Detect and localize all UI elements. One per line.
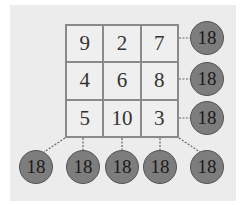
column-sum-circle: 18	[143, 150, 177, 184]
column-sum-circle: 18	[66, 150, 100, 184]
grid-cell: 5	[66, 100, 103, 137]
grid-cell: 4	[66, 62, 103, 99]
grid-cell: 3	[141, 100, 178, 137]
anti-diagonal-sum-circle: 18	[19, 150, 53, 184]
magic-square-grid: 9 2 7 4 6 8 5 10 3	[65, 24, 179, 138]
row-sum-circle: 18	[190, 62, 224, 96]
main-diagonal-sum-circle: 18	[190, 150, 224, 184]
grid-cell: 6	[103, 62, 140, 99]
grid-cell: 10	[103, 100, 140, 137]
row-sum-circle: 18	[190, 21, 224, 55]
grid-cell: 9	[66, 25, 103, 62]
grid-cell: 2	[103, 25, 140, 62]
grid-cell: 7	[141, 25, 178, 62]
grid-cell: 8	[141, 62, 178, 99]
row-sum-circle: 18	[190, 101, 224, 135]
column-sum-circle: 18	[105, 150, 139, 184]
